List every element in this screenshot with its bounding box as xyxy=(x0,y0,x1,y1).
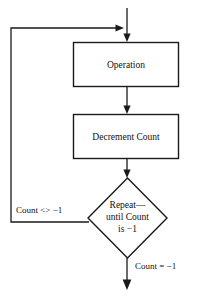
decision-node[interactable]: Repeat— until Count is −1 xyxy=(88,178,167,258)
exit-arrow xyxy=(123,258,132,290)
operation-label: Operation xyxy=(107,60,145,70)
decrement-count-label: Decrement Count xyxy=(92,132,160,142)
decrement-count-node[interactable]: Decrement Count xyxy=(74,115,179,159)
decision-label-line3: is −1 xyxy=(118,224,137,234)
flowchart-canvas: Operation Decrement Count Repeat— until … xyxy=(0,0,198,303)
decision-label-line1: Repeat— xyxy=(110,200,146,210)
entry-arrow xyxy=(123,8,130,42)
decrement-to-decision-arrow xyxy=(123,159,130,179)
decision-label-line2: until Count xyxy=(106,212,149,222)
exit-edge-label: Count = −1 xyxy=(135,261,176,271)
loop-back-edge-label: Count <> −1 xyxy=(16,205,62,215)
operation-node[interactable]: Operation xyxy=(74,43,179,87)
operation-to-decrement-arrow xyxy=(123,87,130,115)
